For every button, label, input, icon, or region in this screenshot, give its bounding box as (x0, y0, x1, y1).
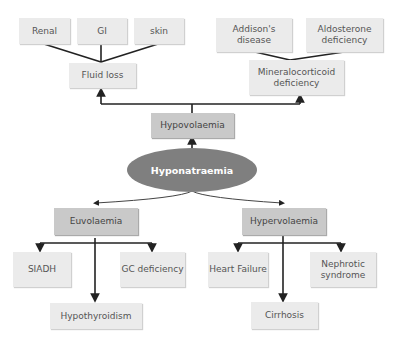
euvolaemia-node: Euvolaemia (54, 208, 138, 235)
hypothyroidism-node: Hypothyroidism (50, 303, 142, 329)
heart-failure-node: Heart Failure (208, 252, 268, 287)
hypervolaemia-node: Hypervolaemia (242, 208, 326, 235)
hypovolaemia-node: Hypovolaemia (151, 113, 234, 138)
addisons-node: Addison's disease (216, 18, 292, 52)
fluid-loss-node: Fluid loss (69, 63, 136, 88)
hyponatraemia-diagram: Renal GI skin Fluid loss Addison's disea… (0, 0, 397, 346)
renal-node: Renal (19, 18, 70, 44)
gc-deficiency-node: GC deficiency (120, 252, 185, 287)
nephrotic-syndrome-node: Nephrotic syndrome (310, 252, 376, 287)
mineralocorticoid-node: Mineralocorticoid deficiency (249, 60, 344, 95)
gi-node: GI (77, 18, 127, 44)
aldosterone-node: Aldosterone deficiency (306, 18, 383, 52)
skin-node: skin (134, 18, 184, 44)
hyponatraemia-ellipse: Hyponatraemia (127, 148, 257, 192)
cirrhosis-node: Cirrhosis (251, 302, 318, 329)
siadh-node: SIADH (13, 252, 71, 287)
